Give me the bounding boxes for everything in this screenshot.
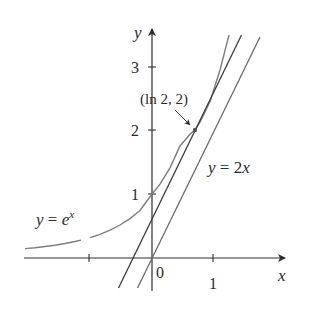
y-axis-label: y xyxy=(132,23,142,42)
tangent-line-diagram: y x 0 1 1 2 3 (ln 2, 2) y = 2x y = ex xyxy=(0,0,319,310)
line-2x-label: y = 2x xyxy=(206,158,250,177)
tangent-point-label: (ln 2, 2) xyxy=(140,91,188,108)
y-tick-label-3: 3 xyxy=(131,59,139,76)
curve-label-eq: = xyxy=(44,210,62,229)
curve-label-y: y xyxy=(34,210,44,229)
y-tick-label-1: 1 xyxy=(131,186,139,203)
x-axis-label: x xyxy=(277,266,286,285)
line-label-eq: = 2 xyxy=(216,158,243,177)
point-annotation-arrow xyxy=(175,110,190,125)
exp-curve-upper xyxy=(90,35,229,238)
tangent-point xyxy=(193,128,197,132)
curve-label-exponent: x xyxy=(68,208,74,220)
origin-label: 0 xyxy=(156,264,164,281)
x-tick-label-1: 1 xyxy=(209,275,217,292)
y-tick-label-2: 2 xyxy=(131,122,139,139)
exp-curve xyxy=(25,240,81,249)
line-label-y: y xyxy=(206,158,216,177)
line-label-x: x xyxy=(241,158,250,177)
curve-label: y = ex xyxy=(34,208,74,229)
